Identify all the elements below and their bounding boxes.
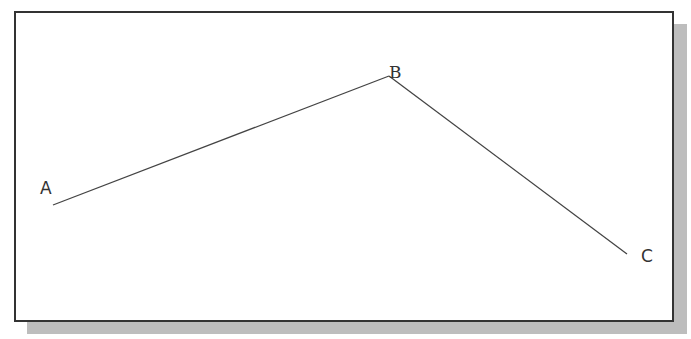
point-label-b: B xyxy=(389,62,402,82)
segment-b-c xyxy=(389,76,627,254)
point-label-c: C xyxy=(641,246,653,266)
point-label-a: A xyxy=(40,178,52,198)
segment-a-b xyxy=(53,76,389,205)
diagram-canvas: A B C xyxy=(0,0,691,339)
